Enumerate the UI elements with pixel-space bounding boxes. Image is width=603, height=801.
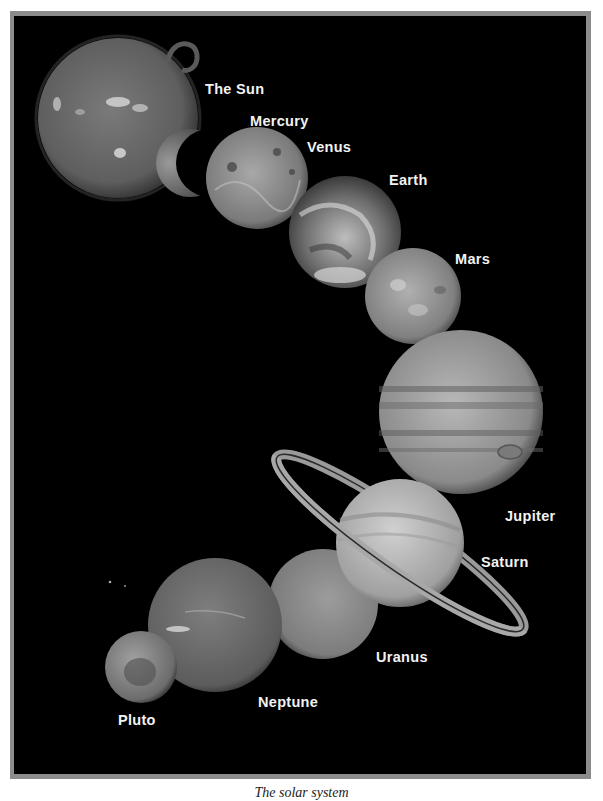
- pluto: [105, 631, 177, 703]
- jupiter: [379, 330, 543, 494]
- label-pluto: Pluto: [118, 713, 156, 728]
- figure-caption: The solar system: [0, 785, 603, 801]
- label-neptune: Neptune: [258, 695, 318, 710]
- mars: [365, 248, 461, 344]
- label-venus: Venus: [307, 140, 351, 155]
- label-uranus: Uranus: [376, 650, 428, 665]
- label-saturn: Saturn: [481, 555, 529, 570]
- label-earth: Earth: [389, 173, 428, 188]
- label-sun: The Sun: [205, 82, 264, 97]
- label-mars: Mars: [455, 252, 490, 267]
- label-jupiter: Jupiter: [505, 509, 555, 524]
- label-mercury: Mercury: [250, 114, 309, 129]
